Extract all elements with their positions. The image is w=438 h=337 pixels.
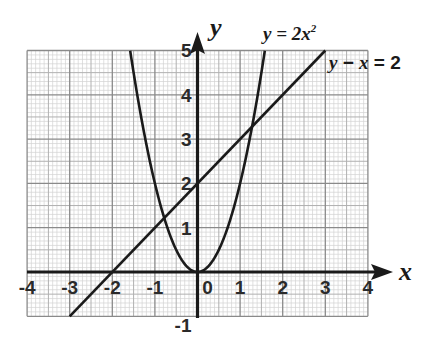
graph-figure: -4-3-2-101234 -112345 x y y = 2x2 y − x … (0, 0, 438, 337)
x-tick-label: 1 (235, 277, 246, 298)
parabola-label-prefix: y = 2 (261, 23, 302, 44)
x-axis-label: x (398, 257, 412, 286)
line-equation-label: y − x = 2 (327, 52, 401, 73)
x-tick-label: -4 (19, 277, 36, 298)
x-tick-label: 4 (363, 277, 374, 298)
y-tick-label: -1 (175, 315, 192, 336)
x-tick-label: 0 (202, 277, 213, 298)
parabola-label-var: x (300, 23, 311, 44)
x-tick-label: -3 (61, 277, 78, 298)
y-tick-label: 2 (181, 173, 192, 194)
line-label-var: x (358, 52, 369, 73)
x-tick-label: -1 (146, 277, 163, 298)
y-tick-label: 1 (181, 218, 192, 239)
x-tick-label: -2 (104, 277, 121, 298)
y-tick-label: 3 (181, 129, 192, 150)
x-tick-label: 2 (277, 277, 288, 298)
y-tick-label: 4 (181, 85, 192, 106)
y-tick-label: 5 (181, 40, 192, 61)
parabola-equation-label: y = 2x2 (261, 22, 317, 44)
parabola-label-sup: 2 (310, 22, 317, 34)
x-tick-label: 3 (320, 277, 331, 298)
y-axis-label: y (207, 13, 222, 42)
line-label-op: − (337, 52, 359, 73)
line-label-y: y (327, 52, 338, 73)
line-label-rhs: = 2 (369, 52, 401, 73)
